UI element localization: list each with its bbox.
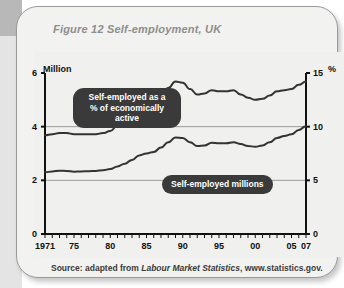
callout-percentage-tail — [169, 111, 174, 122]
x-axis-tick-75: 75 — [62, 241, 86, 251]
callout-millions: Self-employed millions — [162, 175, 273, 194]
right-axis-tick-0: 0 — [313, 229, 329, 239]
x-axis-tick-80: 80 — [98, 241, 122, 251]
right-axis-tick-10: 10 — [313, 122, 329, 132]
series-line-millions — [45, 126, 306, 172]
source-note: Source: adapted from Labour Market Stati… — [51, 263, 323, 273]
x-axis-tick-95: 95 — [207, 241, 231, 251]
left-axis-tick-2: 2 — [23, 175, 37, 185]
left-axis-tick-4: 4 — [23, 122, 37, 132]
right-axis-tick-5: 5 — [313, 175, 329, 185]
callout-percentage: Self-employed as a % of economically act… — [73, 88, 181, 128]
figure-container: Figure 12 Self-employment, UK Million % … — [0, 0, 344, 288]
x-axis-tick-90: 90 — [171, 241, 195, 251]
x-axis-tick-00: 00 — [243, 241, 267, 251]
x-axis-tick-1971: 1971 — [33, 241, 57, 251]
left-axis-tick-0: 0 — [23, 229, 37, 239]
source-prefix: Source: adapted from — [51, 263, 141, 273]
right-axis-tick-15: 15 — [313, 68, 329, 78]
chart-svg — [17, 7, 339, 279]
x-axis-tick-85: 85 — [135, 241, 159, 251]
source-publication: Labour Market Statistics — [141, 263, 240, 273]
left-axis-tick-6: 6 — [23, 68, 37, 78]
source-suffix: , www.statistics.gov. — [240, 263, 323, 273]
x-axis-tick-07: 07 — [294, 241, 318, 251]
figure-card: Figure 12 Self-employment, UK Million % … — [16, 6, 338, 278]
